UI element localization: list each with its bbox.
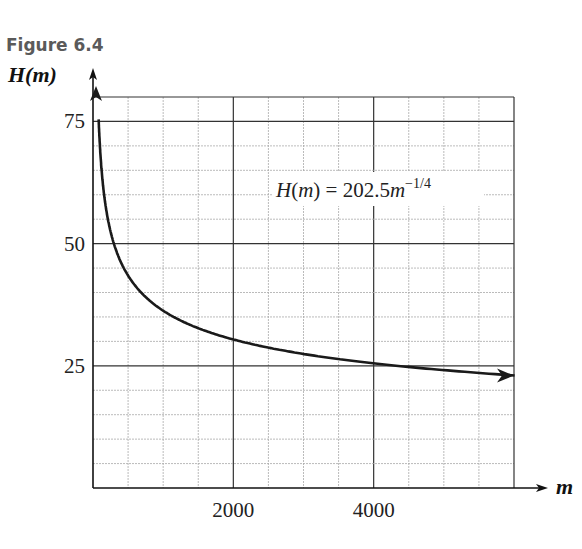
- x-axis-label: m: [556, 474, 573, 499]
- x-tick-label: 2000: [212, 498, 254, 522]
- curve-top-arrow-icon: [90, 86, 102, 101]
- chart: 20004000255075mH(m)H(m) = 202.5m−1/4: [0, 0, 582, 549]
- y-axis-label: H(m): [7, 62, 57, 87]
- function-curve: [99, 119, 515, 375]
- y-tick-label: 50: [64, 232, 85, 256]
- y-tick-label: 25: [64, 354, 85, 378]
- y-tick-label: 75: [64, 109, 85, 133]
- x-tick-label: 4000: [353, 498, 395, 522]
